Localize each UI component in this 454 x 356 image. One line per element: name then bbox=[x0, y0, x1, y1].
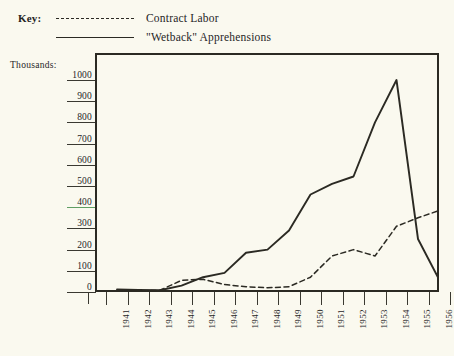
x-tick-label-1945: 1945 bbox=[207, 309, 217, 329]
x-tick-label-1944: 1944 bbox=[186, 309, 196, 329]
line-contract-labor bbox=[117, 210, 439, 291]
x-tick bbox=[278, 292, 279, 305]
y-tick-rule bbox=[67, 80, 95, 81]
x-tick-label-1946: 1946 bbox=[229, 309, 239, 329]
x-axis: 1941194219431944194519461947194819491950… bbox=[95, 292, 439, 354]
y-tick-label: 200 bbox=[77, 240, 92, 250]
y-tick-label: 800 bbox=[77, 112, 92, 122]
x-tick bbox=[149, 292, 150, 305]
x-tick-label-1953: 1953 bbox=[379, 309, 389, 329]
y-tick-rule bbox=[67, 228, 95, 229]
x-tick bbox=[128, 292, 129, 305]
y-tick-label: 400 bbox=[77, 197, 92, 207]
y-tick-label: 700 bbox=[77, 134, 92, 144]
x-tick bbox=[235, 292, 236, 305]
legend-key-label: Key: bbox=[18, 12, 56, 24]
y-tick-label: 1000 bbox=[72, 70, 92, 80]
chart-canvas: Key: Contract Labor "Wetback" Apprehensi… bbox=[0, 0, 454, 356]
x-tick bbox=[257, 292, 258, 305]
x-tick bbox=[450, 292, 451, 305]
y-tick-rule bbox=[67, 165, 95, 166]
x-tick-label-1947: 1947 bbox=[250, 309, 260, 329]
legend-swatch-solid-icon bbox=[56, 32, 134, 42]
line-wetback-apprehensions bbox=[117, 80, 439, 290]
y-axis: 10009008007006005004003002001000 bbox=[0, 53, 95, 292]
x-tick-label-1955: 1955 bbox=[422, 309, 432, 329]
x-tick-label-1952: 1952 bbox=[358, 309, 368, 329]
x-tick bbox=[343, 292, 344, 305]
x-tick-label-1956: 1956 bbox=[444, 309, 454, 329]
y-tick-label: 0 bbox=[87, 282, 92, 292]
legend-label-apprehensions: "Wetback" Apprehensions bbox=[146, 31, 271, 43]
x-axis-left-stub-tick bbox=[88, 292, 89, 304]
y-tick-rule bbox=[67, 101, 95, 102]
y-tick-rule bbox=[67, 122, 95, 123]
chart-legend: Key: Contract Labor "Wetback" Apprehensi… bbox=[18, 8, 358, 46]
y-tick-rule bbox=[67, 271, 95, 272]
x-tick bbox=[386, 292, 387, 305]
legend-label-contract-labor: Contract Labor bbox=[146, 12, 219, 24]
x-tick bbox=[171, 292, 172, 305]
y-tick-label: 600 bbox=[77, 155, 92, 165]
legend-swatch-dashed-icon bbox=[56, 13, 134, 23]
x-tick-label-1943: 1943 bbox=[164, 309, 174, 329]
x-tick bbox=[192, 292, 193, 305]
x-tick-label-1948: 1948 bbox=[272, 309, 282, 329]
x-tick bbox=[407, 292, 408, 305]
x-tick bbox=[300, 292, 301, 305]
y-tick-label: 300 bbox=[77, 218, 92, 228]
x-tick-label-1949: 1949 bbox=[293, 309, 303, 329]
legend-entry-contract-labor: Key: Contract Labor bbox=[18, 8, 358, 27]
y-tick-rule bbox=[67, 144, 95, 145]
y-tick-label: 100 bbox=[77, 261, 92, 271]
y-tick-rule bbox=[67, 207, 95, 208]
x-tick-label-1951: 1951 bbox=[336, 309, 346, 329]
x-tick-label-1942: 1942 bbox=[143, 309, 153, 329]
x-tick bbox=[429, 292, 430, 305]
x-tick bbox=[364, 292, 365, 305]
legend-entry-apprehensions: "Wetback" Apprehensions bbox=[18, 27, 358, 46]
x-tick-label-1954: 1954 bbox=[401, 309, 411, 329]
y-tick-label: 500 bbox=[77, 176, 92, 186]
y-tick-rule bbox=[67, 186, 95, 187]
plot-lines bbox=[95, 53, 439, 292]
y-tick-label: 900 bbox=[77, 91, 92, 101]
y-tick-rule bbox=[67, 250, 95, 251]
x-tick-label-1950: 1950 bbox=[315, 309, 325, 329]
x-tick bbox=[106, 292, 107, 305]
x-tick bbox=[321, 292, 322, 305]
x-tick-label-1941: 1941 bbox=[121, 309, 131, 329]
x-tick bbox=[214, 292, 215, 305]
